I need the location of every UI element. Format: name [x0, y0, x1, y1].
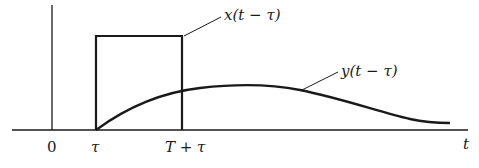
x-label-leader [184, 17, 221, 36]
tick-label-origin: 0 [47, 140, 57, 155]
response-curve-y [96, 85, 450, 130]
y-label-leader [302, 72, 338, 90]
tick-label-T-plus-tau: T + τ [165, 140, 205, 155]
x-signal-label: x(t − τ) [224, 8, 281, 23]
tick-label-tau: τ [91, 140, 99, 155]
pulse-x [96, 36, 182, 130]
time-axis-label: t [463, 137, 469, 152]
signal-diagram [0, 0, 479, 168]
y-signal-label: y(t − τ) [341, 64, 398, 79]
